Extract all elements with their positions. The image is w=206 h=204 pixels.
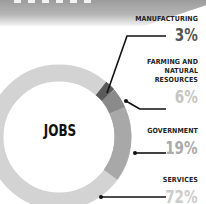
label-farming-line2: NATURAL (165, 67, 198, 75)
pct-manufacturing: 3% (175, 26, 198, 44)
label-government: GOVERNMENT (147, 127, 198, 135)
label-farming-line3: RESOURCES (155, 76, 198, 84)
leader-dot-government (133, 151, 137, 155)
label-services: SERVICES (163, 176, 198, 184)
pct-government: 19% (165, 139, 198, 157)
leader-dot-services (99, 195, 103, 199)
center-label: JOBS (36, 122, 84, 140)
leader-dot-farming (124, 99, 128, 103)
label-manufacturing: MANUFACTURING (135, 15, 198, 23)
pct-farming: 6% (175, 88, 198, 106)
label-farming-line1: FARMING AND (147, 58, 198, 66)
segment-farming (108, 95, 117, 110)
pct-services: 72% (165, 188, 198, 204)
